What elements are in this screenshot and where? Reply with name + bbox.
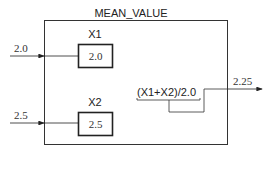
mean-value-diagram: MEAN_VALUE X1 2.0 2.0 X2 2.5 2.5 (X1+X2)…: [0, 0, 269, 170]
x2-label: X2: [88, 96, 101, 108]
formula-text: (X1+X2)/2.0: [137, 86, 196, 98]
x1-label: X1: [88, 28, 101, 40]
outer-block: [45, 21, 228, 145]
output-value: 2.25: [233, 75, 253, 87]
block-title: MEAN_VALUE: [94, 7, 167, 19]
formula-bracket: [137, 98, 200, 100]
x1-value: 2.0: [89, 50, 103, 62]
x2-value: 2.5: [89, 118, 103, 130]
x2-input-label: 2.5: [14, 109, 28, 121]
x1-input-label: 2.0: [14, 42, 28, 54]
